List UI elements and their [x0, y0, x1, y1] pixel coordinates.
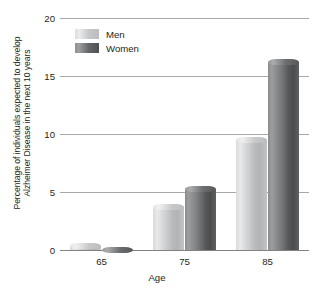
gridline-0-axis: 0 — [60, 250, 309, 251]
bar-cap — [268, 59, 299, 65]
men-swatch-icon — [75, 29, 99, 39]
bar-cap — [153, 204, 184, 210]
y-tick-label-10: 10 — [44, 129, 55, 140]
bar-men-65 — [70, 243, 101, 250]
bar-women-65 — [102, 247, 133, 250]
y-axis-title-line-1: Percentage of individuals expected to de… — [12, 36, 22, 209]
legend-item-women[interactable]: Women — [75, 43, 139, 53]
bar-men-85 — [236, 137, 267, 250]
y-tick-label-0: 0 — [50, 245, 55, 256]
bar-women-75 — [185, 186, 216, 250]
bar-body — [268, 62, 299, 250]
bar-women-85 — [268, 59, 299, 250]
x-tick-label-75: 75 — [179, 256, 190, 267]
legend-label-women: Women — [106, 43, 139, 54]
bar-body — [236, 140, 267, 250]
bar-cap — [102, 247, 133, 253]
bar-cap — [70, 243, 101, 249]
y-axis-title-line-2: Alzheimer Disease in the next 10 years — [22, 49, 32, 196]
x-tick-label-85: 85 — [262, 256, 273, 267]
bar-body — [185, 189, 216, 250]
bar-body — [153, 207, 184, 250]
y-tick-label-15: 15 — [44, 71, 55, 82]
x-tick-label-65: 65 — [96, 256, 107, 267]
legend-item-men[interactable]: Men — [75, 29, 139, 39]
bar-men-75 — [153, 204, 184, 250]
y-tick-label-5: 5 — [50, 187, 55, 198]
x-axis-title: Age — [0, 272, 314, 283]
bar-cap — [185, 186, 216, 192]
legend-label-men: Men — [106, 29, 125, 40]
women-swatch-icon — [75, 43, 99, 53]
y-axis-title: Percentage of individuals expected to de… — [7, 7, 37, 239]
bar-chart: Percentage of individuals expected to de… — [0, 0, 314, 290]
bar-cap — [236, 137, 267, 143]
y-tick-label-20: 20 — [44, 13, 55, 24]
legend: Men Women — [75, 29, 139, 53]
